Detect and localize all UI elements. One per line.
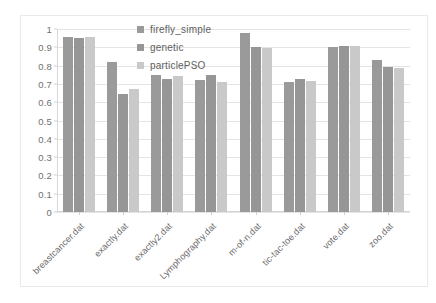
bar [383, 67, 393, 212]
bar [173, 76, 183, 212]
legend-item[interactable]: firefly_simple [137, 24, 211, 35]
y-tick-label: 0 [47, 207, 52, 218]
bar [217, 82, 227, 212]
legend-label: particlePSO [150, 60, 206, 71]
bar [262, 48, 272, 212]
bar [394, 68, 404, 212]
y-tick-label: 0.4 [38, 133, 52, 144]
legend-swatch-icon [137, 26, 144, 33]
x-tick-mark [167, 212, 168, 215]
bar [206, 75, 216, 212]
plot-area: 00.10.20.30.40.50.60.70.80.91 [57, 29, 410, 212]
bar [129, 89, 139, 212]
y-tick-label: 0.7 [38, 78, 52, 89]
x-tick-mark [211, 212, 212, 215]
legend-swatch-icon [137, 62, 144, 69]
bar-group [366, 29, 410, 212]
gridline [57, 212, 410, 213]
bar [251, 47, 261, 212]
bar [328, 47, 338, 212]
bar [74, 38, 84, 212]
bar [118, 94, 128, 212]
y-tick-label: 0.6 [38, 97, 52, 108]
bar-group [234, 29, 278, 212]
y-tick-label: 1 [47, 24, 52, 35]
bar [295, 79, 305, 212]
legend-item[interactable]: genetic [137, 42, 211, 53]
x-tick-mark [123, 212, 124, 215]
legend-label: genetic [150, 42, 184, 53]
bar [284, 82, 294, 212]
bar [151, 75, 161, 212]
bar [107, 62, 117, 212]
bar [162, 79, 172, 212]
bar-groups [57, 29, 410, 212]
bar [85, 37, 95, 212]
bar [63, 37, 73, 212]
x-tick-mark [79, 212, 80, 215]
bar [306, 81, 316, 212]
x-tick-mark [388, 212, 389, 215]
bar [339, 46, 349, 212]
legend: firefly_simplegeneticparticlePSO [137, 24, 211, 71]
legend-item[interactable]: particlePSO [137, 60, 211, 71]
bar-group [57, 29, 101, 212]
legend-swatch-icon [137, 44, 144, 51]
y-tick-label: 0.8 [38, 60, 52, 71]
y-tick-label: 0.9 [38, 42, 52, 53]
bar-chart: 00.10.20.30.40.50.60.70.80.91 breastcanc… [0, 0, 436, 303]
x-tick-mark [256, 212, 257, 215]
y-tick-label: 0.2 [38, 170, 52, 181]
x-tick-mark [344, 212, 345, 215]
legend-label: firefly_simple [150, 24, 211, 35]
y-tick-label: 0.3 [38, 152, 52, 163]
bar [372, 60, 382, 212]
bar-group [278, 29, 322, 212]
y-tick-label: 0.1 [38, 188, 52, 199]
bar [240, 33, 250, 212]
bar-group [322, 29, 366, 212]
bar [350, 46, 360, 212]
y-tick-label: 0.5 [38, 115, 52, 126]
bar [195, 80, 205, 212]
x-tick-mark [300, 212, 301, 215]
